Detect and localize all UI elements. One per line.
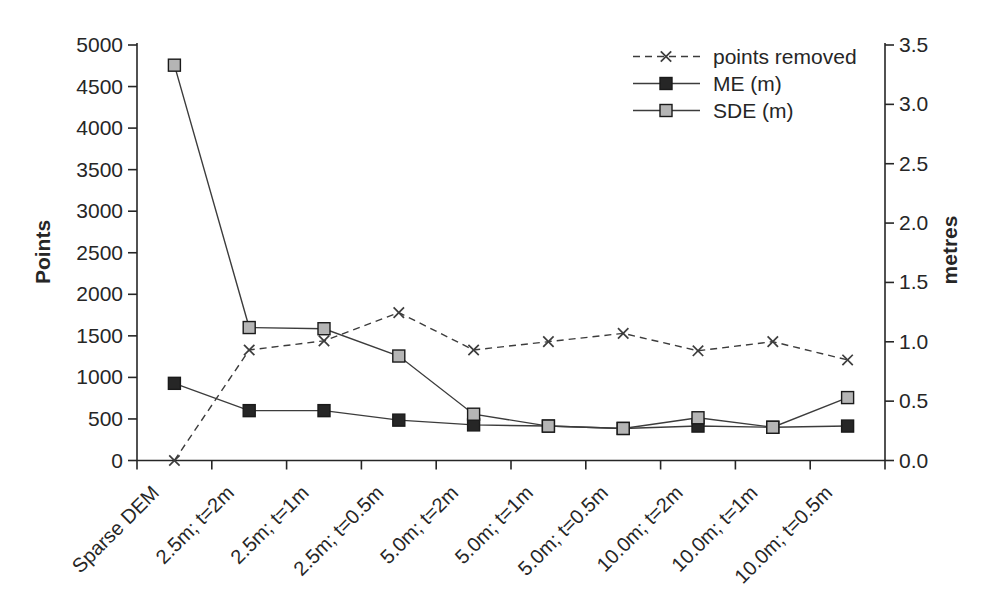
y-left-tick-label: 3000	[76, 199, 123, 222]
y-right-tick-label: 3.5	[899, 33, 928, 56]
square-marker	[168, 59, 180, 71]
legend-label: ME (m)	[713, 72, 782, 95]
square-marker	[842, 420, 854, 432]
square-marker	[660, 105, 672, 117]
legend-label: points removed	[713, 45, 857, 68]
y-right-tick-label: 2.5	[899, 152, 928, 175]
square-marker	[243, 322, 255, 334]
y-left-tick-label: 2000	[76, 282, 123, 305]
square-marker	[168, 377, 180, 389]
y-left-tick-label: 3500	[76, 158, 123, 181]
square-marker	[468, 408, 480, 420]
square-marker	[393, 350, 405, 362]
line-chart: Sparse DEM2.5m; t=2m2.5m; t=1m2.5m; t=0.…	[0, 0, 999, 613]
y-left-axis-title: Points	[31, 220, 54, 284]
y-left-tick-label: 1000	[76, 365, 123, 388]
square-marker	[842, 392, 854, 404]
square-marker	[318, 323, 330, 335]
y-right-tick-label: 1.0	[899, 330, 928, 353]
y-right-tick-label: 0.0	[899, 449, 928, 472]
square-marker	[542, 420, 554, 432]
y-left-tick-label: 2500	[76, 241, 123, 264]
y-right-tick-label: 0.5	[899, 389, 928, 412]
square-marker	[692, 412, 704, 424]
y-right-axis-title: metres	[938, 216, 961, 285]
y-left-tick-label: 4500	[76, 75, 123, 98]
figure-page: Sparse DEM2.5m; t=2m2.5m; t=1m2.5m; t=0.…	[0, 0, 999, 613]
square-marker	[243, 405, 255, 417]
y-right-tick-label: 2.0	[899, 211, 928, 234]
square-marker	[617, 422, 629, 434]
y-left-tick-label: 1500	[76, 324, 123, 347]
square-marker	[393, 414, 405, 426]
legend-label: SDE (m)	[713, 99, 794, 122]
y-right-tick-label: 1.5	[899, 270, 928, 293]
square-marker	[767, 421, 779, 433]
y-left-tick-label: 500	[88, 407, 123, 430]
square-marker	[318, 405, 330, 417]
square-marker	[660, 78, 672, 90]
y-left-tick-label: 0	[111, 449, 123, 472]
y-left-tick-label: 4000	[76, 116, 123, 139]
y-right-tick-label: 3.0	[899, 92, 928, 115]
y-left-tick-label: 5000	[76, 33, 123, 56]
